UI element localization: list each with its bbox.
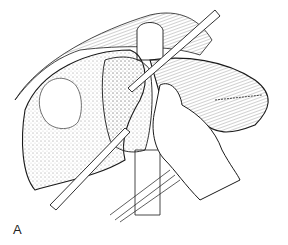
liver-drawing: [0, 0, 288, 245]
panel-label: A: [13, 222, 22, 237]
surgical-illustration: [0, 0, 288, 245]
